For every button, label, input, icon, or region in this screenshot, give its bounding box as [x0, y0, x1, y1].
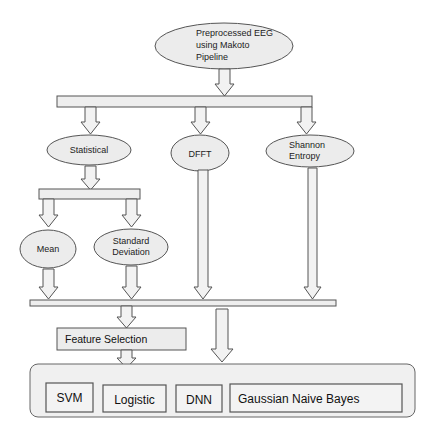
dfft-label: DFFT — [189, 149, 212, 159]
std-node: Standard Deviation — [94, 229, 168, 265]
shannon-label-line1: Shannon — [289, 140, 325, 150]
flow-diagram: Preprocessed EEG using Makoto Pipeline S… — [0, 0, 442, 440]
classifier-logistic: Logistic — [103, 385, 166, 412]
arrow-down-icon — [304, 168, 321, 299]
classifier-logistic-label: Logistic — [114, 393, 155, 407]
arrow-down-icon — [122, 199, 141, 227]
std-label-line1: Standard — [113, 236, 150, 246]
classifier-gaussian-nb-label: Gaussian Naive Bayes — [238, 392, 359, 406]
arrow-down-icon — [39, 199, 58, 227]
dfft-node: DFFT — [171, 135, 229, 171]
source-label-line2: using Makoto — [196, 40, 250, 50]
statistical-node: Statistical — [47, 135, 131, 165]
arrow-down-icon — [81, 166, 100, 190]
arrow-down-icon — [297, 107, 316, 134]
arrow-down-icon — [211, 309, 233, 362]
source-label-line1: Preprocessed EEG — [196, 28, 273, 38]
source-label-line3: Pipeline — [196, 52, 228, 62]
arrow-down-icon — [39, 269, 58, 299]
aggregation-bar — [30, 300, 336, 306]
arrow-down-icon — [194, 170, 212, 299]
shannon-entropy-node: Shannon Entropy — [266, 135, 354, 167]
feature-selection-node: Feature Selection — [57, 328, 186, 350]
arrow-down-icon — [81, 107, 100, 134]
arrow-down-icon — [191, 107, 210, 134]
std-label-line2: Deviation — [112, 247, 150, 257]
classifier-dnn: DNN — [176, 385, 222, 412]
arrow-down-icon — [215, 69, 234, 96]
mean-label: Mean — [37, 244, 60, 254]
classifier-gaussian-nb: Gaussian Naive Bayes — [230, 384, 402, 412]
mean-node: Mean — [20, 230, 76, 268]
feature-selection-label: Feature Selection — [65, 333, 147, 345]
shannon-label-line2: Entropy — [289, 151, 321, 161]
classifier-dnn-label: DNN — [186, 393, 212, 407]
statistical-label: Statistical — [70, 145, 109, 155]
classifier-svm: SVM — [46, 383, 93, 412]
source-node: Preprocessed EEG using Makoto Pipeline — [155, 23, 293, 69]
distribution-bar-top — [57, 96, 312, 107]
classifier-svm-label: SVM — [56, 391, 82, 405]
arrow-down-icon — [122, 266, 141, 299]
distribution-bar-statistical — [39, 189, 140, 199]
arrow-down-icon — [117, 306, 136, 328]
